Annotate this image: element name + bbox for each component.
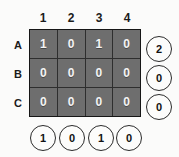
cell-c1[interactable]: 0 <box>30 88 57 116</box>
column-sum-4: 0 <box>116 125 142 151</box>
cell-a4[interactable]: 0 <box>113 30 140 58</box>
column-sum-3: 1 <box>88 125 114 151</box>
column-header-4: 4 <box>113 10 141 26</box>
column-sum-1: 1 <box>30 125 56 151</box>
cell-a1[interactable]: 1 <box>30 30 57 58</box>
row-sum-c: 0 <box>146 94 172 120</box>
column-header-3: 3 <box>85 10 113 26</box>
cell-c2[interactable]: 0 <box>58 88 85 116</box>
cell-b3[interactable]: 0 <box>86 59 113 87</box>
matrix-diagram: 1 2 3 4 A B C 1 0 1 0 0 0 0 0 0 0 0 0 2 … <box>0 0 179 157</box>
cell-a3[interactable]: 1 <box>86 30 113 58</box>
cell-c4[interactable]: 0 <box>113 88 140 116</box>
cell-b4[interactable]: 0 <box>113 59 140 87</box>
column-header-2: 2 <box>57 10 85 26</box>
row-label-c: C <box>9 95 27 111</box>
cell-b1[interactable]: 0 <box>30 59 57 87</box>
row-label-a: A <box>9 37 27 53</box>
cell-b2[interactable]: 0 <box>58 59 85 87</box>
cell-a2[interactable]: 0 <box>58 30 85 58</box>
row-sum-b: 0 <box>146 65 172 91</box>
column-sum-2: 0 <box>59 125 85 151</box>
column-header-1: 1 <box>29 10 57 26</box>
cell-c3[interactable]: 0 <box>86 88 113 116</box>
matrix-grid: 1 0 1 0 0 0 0 0 0 0 0 0 <box>29 29 141 117</box>
row-label-b: B <box>9 66 27 82</box>
row-sum-a: 2 <box>146 36 172 62</box>
